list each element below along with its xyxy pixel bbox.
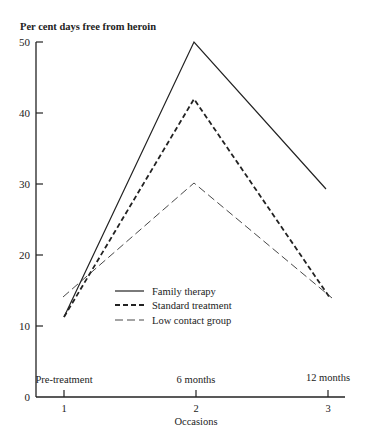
svg-text:Pre-treatment: Pre-treatment	[35, 374, 92, 385]
legend: Family therapy Standard treatment Low co…	[115, 286, 232, 326]
svg-text:6 months: 6 months	[177, 374, 216, 385]
series-standard-treatment	[64, 99, 330, 317]
svg-text:1: 1	[61, 403, 66, 414]
y-ticks	[36, 42, 43, 326]
y-axis-title: Per cent days free from heroin	[20, 21, 156, 32]
svg-text:12 months: 12 months	[306, 372, 350, 383]
svg-text:0: 0	[25, 391, 31, 403]
x-tick-labels: 1 2 3	[61, 403, 330, 414]
line-chart: Per cent days free from heroin 50 40 30 …	[0, 0, 372, 443]
svg-text:20: 20	[19, 249, 31, 261]
svg-text:10: 10	[19, 320, 31, 332]
svg-text:2: 2	[193, 403, 198, 414]
x-axis-title: Occasions	[174, 416, 217, 427]
x-annotations: Pre-treatment 6 months 12 months	[35, 372, 350, 385]
svg-text:Standard treatment: Standard treatment	[152, 300, 232, 311]
x-ticks	[64, 390, 328, 397]
svg-text:Low contact group: Low contact group	[152, 315, 231, 326]
series-family-therapy	[64, 42, 326, 317]
svg-text:3: 3	[325, 403, 330, 414]
svg-text:50: 50	[19, 36, 31, 48]
svg-text:30: 30	[19, 178, 31, 190]
y-tick-labels: 50 40 30 20 10 0	[19, 36, 31, 403]
svg-text:Family therapy: Family therapy	[152, 286, 217, 297]
svg-text:40: 40	[19, 107, 31, 119]
